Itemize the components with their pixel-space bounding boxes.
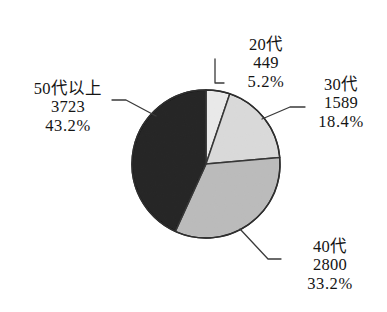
pie-label-30dai-value: 1589 xyxy=(296,94,386,112)
pie-label-20dai-category: 20代 xyxy=(218,36,314,54)
pie-label-40dai-category: 40代 xyxy=(278,238,382,256)
pie-chart-figure: 20代 449 5.2% 30代 1589 18.4% 40代 2800 33.… xyxy=(0,0,387,312)
pie-label-50dai-percent: 43.2% xyxy=(6,117,130,135)
leader-line-40dai xyxy=(240,229,281,259)
scan-grain-overlay xyxy=(133,91,279,237)
pie-label-50dai-category: 50代以上 xyxy=(6,80,130,98)
pie-label-20dai-value: 449 xyxy=(218,54,314,72)
pie-label-50dai-plus: 50代以上 3723 43.2% xyxy=(6,80,130,135)
pie-label-30dai-percent: 18.4% xyxy=(296,113,386,131)
pie-label-30dai-category: 30代 xyxy=(296,76,386,94)
pie-label-50dai-value: 3723 xyxy=(6,98,130,116)
pie-label-30dai: 30代 1589 18.4% xyxy=(296,76,386,131)
pie-label-40dai-value: 2800 xyxy=(278,256,382,274)
pie-label-40dai-percent: 33.2% xyxy=(278,275,382,293)
pie-label-40dai: 40代 2800 33.2% xyxy=(278,238,382,293)
